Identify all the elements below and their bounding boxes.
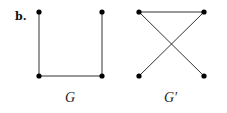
- graph-g-label: G: [65, 90, 75, 105]
- node-gp-tl: [136, 9, 141, 14]
- node-g-tl: [36, 9, 41, 14]
- graph-diagram: b. G G′: [0, 0, 227, 113]
- graph-g-prime-label: G′: [164, 90, 178, 105]
- node-gp-br: [201, 73, 206, 78]
- node-g-br: [99, 73, 104, 78]
- panel-label: b.: [15, 10, 27, 23]
- node-gp-tr: [201, 9, 206, 14]
- graph-g-prime: G′: [136, 9, 206, 105]
- node-gp-bl: [136, 73, 141, 78]
- node-g-bl: [36, 73, 41, 78]
- node-g-tr: [99, 9, 104, 14]
- graph-g: G: [36, 9, 104, 105]
